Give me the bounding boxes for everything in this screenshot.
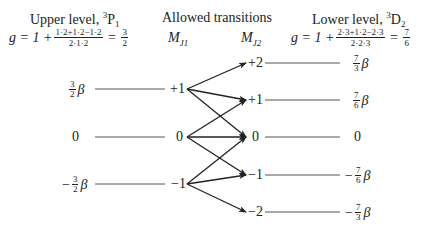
energy-den: 6 [355, 176, 362, 185]
lower-energy-minus2: − 73 β [345, 203, 370, 222]
lower-energy-plus2: 73 β [351, 54, 368, 73]
lower-energy-minus1: − 76 β [345, 166, 370, 185]
energy-beta: β [78, 82, 85, 98]
mj1-0: 0 [176, 129, 183, 145]
arrow-0-to-minus1 [187, 137, 246, 175]
energy-beta: β [363, 205, 370, 221]
energy-zero: 0 [354, 129, 361, 145]
energy-beta: β [80, 177, 87, 193]
energy-den: 3 [355, 213, 362, 222]
energy-sign: − [62, 177, 70, 193]
arrow-plus1-to-0 [187, 89, 246, 137]
energy-fraction: 76 [355, 166, 362, 185]
mj2-minus1: −1 [248, 167, 263, 183]
energy-den: 6 [353, 101, 360, 110]
energy-zero: 0 [72, 129, 79, 145]
mj1-minus1: −1 [171, 176, 186, 192]
mj1-plus1: +1 [170, 81, 185, 97]
energy-fraction: 76 [353, 91, 360, 110]
energy-beta: β [362, 56, 369, 72]
energy-fraction: 32 [72, 175, 79, 194]
lower-energy-0: 0 [354, 129, 361, 145]
arrow-0-to-plus1 [187, 100, 246, 137]
energy-beta: β [362, 93, 369, 109]
arrow-minus1-to-minus2 [187, 184, 246, 212]
mj2-minus2: −2 [248, 204, 263, 220]
energy-den: 2 [69, 90, 76, 99]
mj2-plus1: +1 [248, 92, 263, 108]
transition-diagram [0, 0, 434, 233]
energy-sign: − [345, 168, 353, 184]
energy-den: 2 [72, 185, 79, 194]
energy-fraction: 73 [355, 203, 362, 222]
energy-sign: − [345, 205, 353, 221]
arrow-plus1-to-plus2 [187, 63, 246, 89]
mj2-plus2: +2 [248, 55, 263, 71]
energy-beta: β [363, 168, 370, 184]
upper-energy-minus1: − 32 β [62, 175, 87, 194]
energy-fraction: 73 [353, 54, 360, 73]
energy-den: 3 [353, 64, 360, 73]
upper-energy-0: 0 [72, 129, 79, 145]
energy-fraction: 32 [69, 80, 76, 99]
mj2-0: 0 [252, 129, 259, 145]
arrow-plus1-to-plus1 [187, 89, 246, 100]
upper-energy-plus1: 32 β [67, 80, 84, 99]
lower-energy-plus1: 76 β [351, 91, 368, 110]
